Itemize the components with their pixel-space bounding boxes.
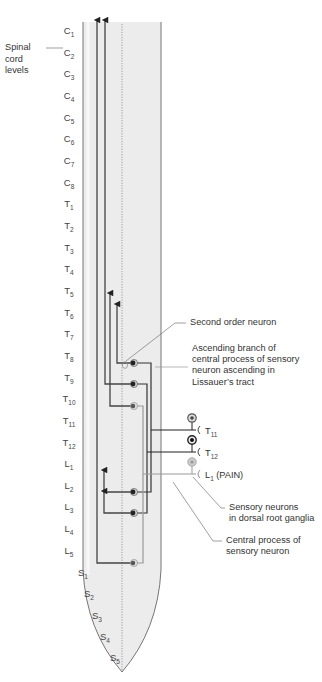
level-label-t1: T1 bbox=[64, 198, 74, 211]
level-label-l4: L4 bbox=[65, 523, 74, 536]
annotation-second-order-neuron: Second order neuron bbox=[190, 317, 276, 328]
annotation-central-process: Central process of sensory neuron bbox=[226, 535, 301, 557]
level-label-c2: C2 bbox=[64, 47, 75, 60]
annotation-text: Central process of bbox=[226, 535, 301, 546]
level-label-l2: L2 bbox=[65, 480, 74, 493]
nerve-labels: T11 T12 L1 (PAIN) bbox=[205, 426, 243, 482]
svg-text:L1 (PAIN): L1 (PAIN) bbox=[205, 470, 243, 482]
annotation-text: central process of sensory bbox=[192, 354, 299, 365]
svg-text:T12: T12 bbox=[205, 448, 218, 460]
level-label-t2: T2 bbox=[64, 220, 74, 233]
spinal-cord-levels-label: Spinal cord levels bbox=[5, 42, 31, 77]
annotation-sensory-neurons: Sensory neurons in dorsal root ganglia bbox=[229, 502, 314, 524]
annotation-text: Sensory neurons bbox=[229, 502, 314, 513]
level-label-c6: C6 bbox=[64, 133, 75, 146]
level-label-c1: C1 bbox=[64, 25, 75, 38]
annotation-ascending-branch: Ascending branch of central process of s… bbox=[192, 343, 299, 388]
level-label-c5: C5 bbox=[64, 112, 75, 125]
level-label-c8: C8 bbox=[64, 177, 75, 190]
level-label-c4: C4 bbox=[64, 90, 75, 103]
title-line: levels bbox=[5, 65, 31, 77]
spinal-cord-diagram: C1C2C3C4C5C6C7C8T1T2T3T4T5T6T7T8T9T10T11… bbox=[0, 0, 322, 682]
level-label-t7: T7 bbox=[64, 328, 74, 341]
title-line: Spinal bbox=[5, 42, 31, 54]
level-label-t12: T12 bbox=[62, 437, 75, 450]
level-label-c3: C3 bbox=[64, 68, 75, 81]
level-label-t3: T3 bbox=[64, 242, 74, 255]
level-label-l3: L3 bbox=[65, 501, 74, 514]
level-label-l1: L1 bbox=[65, 458, 74, 471]
svg-text:T11: T11 bbox=[205, 426, 218, 438]
leader-sensory-neurons bbox=[193, 477, 225, 508]
annotation-text: Ascending branch of bbox=[192, 343, 299, 354]
level-label-l5: L5 bbox=[65, 545, 74, 558]
annotation-text: in dorsal root ganglia bbox=[229, 513, 314, 524]
level-label-t10: T10 bbox=[62, 393, 75, 406]
annotation-text: sensory neuron bbox=[226, 546, 301, 557]
title-line: cord bbox=[5, 54, 31, 66]
level-label-t9: T9 bbox=[64, 372, 74, 385]
leader-central-process bbox=[173, 482, 222, 541]
level-label-t6: T6 bbox=[64, 307, 74, 320]
annotation-text: Second order neuron bbox=[190, 317, 276, 328]
dorsal-root-ganglia bbox=[188, 414, 196, 474]
level-label-t5: T5 bbox=[64, 285, 74, 298]
level-label-c7: C7 bbox=[64, 155, 75, 168]
level-label-t8: T8 bbox=[64, 350, 74, 363]
annotation-text: Lissauer’s tract bbox=[192, 377, 299, 388]
level-label-t11: T11 bbox=[63, 415, 76, 428]
annotation-text: neuron ascending in bbox=[192, 365, 299, 376]
nerve-label-l1-suffix: (PAIN) bbox=[214, 470, 243, 480]
level-label-t4: T4 bbox=[64, 263, 74, 276]
